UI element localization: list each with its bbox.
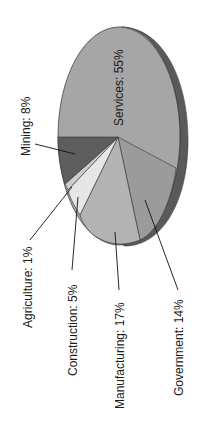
label-services: Services: 55%: [112, 49, 126, 126]
label-manufacturing: Manufacturing: 17%: [113, 302, 127, 409]
label-government: Government: 14%: [172, 299, 186, 396]
label-agriculture: Agriculture: 1%: [21, 246, 35, 328]
label-mining: Mining: 8%: [19, 96, 33, 156]
leader-agriculture: [30, 187, 72, 240]
label-construction: Construction: 5%: [66, 284, 80, 376]
pie-chart: Services: 55% Mining: 8% Agriculture: 1%…: [0, 0, 197, 421]
